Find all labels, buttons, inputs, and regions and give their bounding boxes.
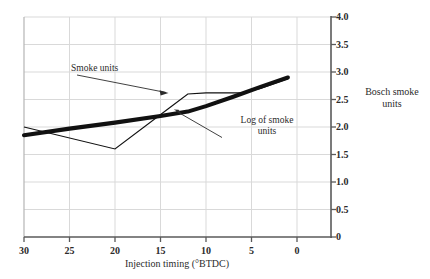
annotation-label-log-of-smoke-units: Log of smoke units <box>228 115 306 137</box>
annotation-label-smoke-units: Smoke units <box>71 63 118 74</box>
x-tick-label-25: 25 <box>57 246 83 256</box>
y-tick-label-0_5: 0.5 <box>336 205 349 215</box>
x-tick-label-0: 0 <box>284 246 310 256</box>
y-axis-title-line-1: Bosch smoke <box>356 86 428 98</box>
y-axis-title-line-2: units <box>356 98 428 110</box>
y-tick-label-3_5: 3.5 <box>336 40 349 50</box>
x-tick-label-20: 20 <box>102 246 128 256</box>
annotation-log-line-1: Log of smoke <box>228 115 306 126</box>
chart-plot-area <box>0 0 430 279</box>
chart-container: 4.0 3.5 3.0 2.5 2.0 1.5 1.0 0.5 0 30 25 … <box>0 0 430 279</box>
x-tick-label-15: 15 <box>148 246 174 256</box>
y-tick-label-1_5: 1.5 <box>336 150 349 160</box>
y-tick-label-4: 4.0 <box>336 12 349 22</box>
y-axis-title: Bosch smoke units <box>356 86 428 110</box>
annotation-log-line-2: units <box>228 126 306 137</box>
annotation-arrow-log-of-smoke-units <box>174 110 222 138</box>
x-tick-label-5: 5 <box>239 246 265 256</box>
y-tick-label-0: 0 <box>336 232 341 242</box>
y-tick-label-2_5: 2.5 <box>336 95 349 105</box>
x-tick-label-30: 30 <box>11 246 37 256</box>
x-tick-label-10: 10 <box>193 246 219 256</box>
y-tick-label-2: 2.0 <box>336 122 349 132</box>
annotation-arrow-smoke-units <box>77 75 169 96</box>
x-axis-title: Injection timing (°BTDC) <box>112 258 242 269</box>
y-tick-label-3: 3.0 <box>336 67 349 77</box>
y-tick-label-1: 1.0 <box>336 177 349 187</box>
